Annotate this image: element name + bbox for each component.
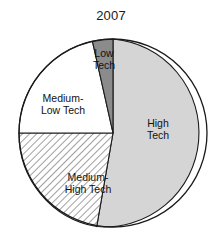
pie-slice-medium-high-tech[interactable] [19, 133, 113, 227]
pie-chart-figure: 2007 Low Tech High Tech Medium- Low Tech… [0, 0, 222, 250]
pie-chart-svg [0, 0, 222, 250]
